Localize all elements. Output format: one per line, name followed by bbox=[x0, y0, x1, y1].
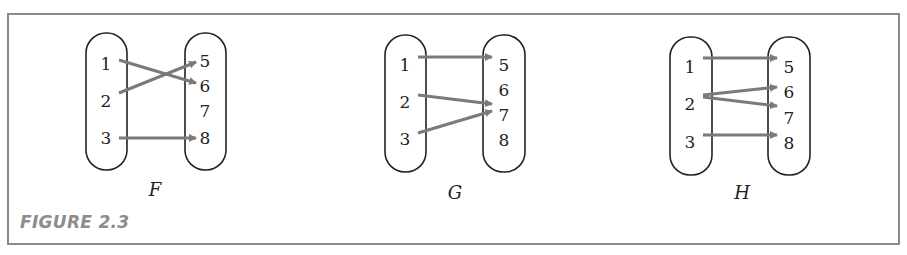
codomain-element: 6 bbox=[200, 76, 211, 96]
function-name: F bbox=[148, 179, 163, 200]
function-name: H bbox=[733, 182, 750, 203]
mapping-diagrams: 1 2 3 5 6 7 8 F 1 2 3 5 6 7 8 G 1 2 3 5 … bbox=[0, 0, 907, 255]
codomain-element: 7 bbox=[784, 108, 795, 128]
codomain-element: 7 bbox=[499, 105, 510, 125]
domain-element: 3 bbox=[101, 128, 112, 148]
codomain-element: 7 bbox=[200, 101, 211, 121]
mapping-arrow bbox=[418, 111, 492, 133]
diagram-g: 1 2 3 5 6 7 8 G bbox=[385, 35, 525, 203]
codomain-element: 8 bbox=[499, 130, 510, 150]
function-name: G bbox=[448, 182, 462, 203]
codomain-element: 5 bbox=[784, 57, 795, 77]
domain-element: 1 bbox=[400, 55, 411, 75]
codomain-element: 5 bbox=[200, 51, 211, 71]
diagram-f: 1 2 3 5 6 7 8 F bbox=[86, 33, 226, 200]
mapping-arrow bbox=[703, 97, 777, 106]
domain-element: 3 bbox=[400, 129, 411, 149]
domain-element: 2 bbox=[101, 91, 112, 111]
domain-element: 2 bbox=[400, 92, 411, 112]
diagram-h: 1 2 3 5 6 7 8 H bbox=[670, 37, 810, 203]
codomain-element: 8 bbox=[784, 133, 795, 153]
codomain-element: 8 bbox=[200, 128, 211, 148]
domain-element: 1 bbox=[101, 54, 112, 74]
figure-label: FIGURE 2.3 bbox=[20, 212, 129, 232]
codomain-element: 6 bbox=[499, 80, 510, 100]
domain-element: 2 bbox=[685, 94, 696, 114]
mapping-arrow bbox=[703, 87, 777, 95]
domain-element: 1 bbox=[685, 57, 696, 77]
mapping-arrow bbox=[418, 95, 492, 104]
codomain-element: 5 bbox=[499, 55, 510, 75]
codomain-element: 6 bbox=[784, 82, 795, 102]
domain-element: 3 bbox=[685, 132, 696, 152]
